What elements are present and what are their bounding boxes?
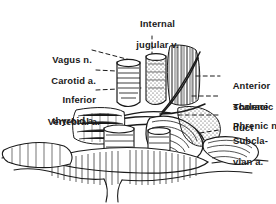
label-line-2: vian a. bbox=[233, 156, 263, 167]
label-line-1: Vagus n. bbox=[52, 54, 92, 65]
label-line-1: Anterior bbox=[233, 80, 271, 91]
label-vertebral-artery: Vertebral a. bbox=[4, 106, 100, 138]
label-line-1: Internal bbox=[140, 18, 175, 29]
label-line-2: jugular v. bbox=[136, 39, 178, 50]
left-tissue-mass bbox=[2, 142, 72, 168]
label-internal-jugular-vein: Internal jugular v. bbox=[112, 8, 192, 61]
carotid-artery-stump bbox=[117, 59, 140, 106]
label-line-1: Vertebral a. bbox=[48, 116, 100, 127]
anatomical-figure: Internal jugular v. Vagus n. Carotid a. … bbox=[0, 0, 276, 204]
label-line-1: Subcla- bbox=[233, 135, 268, 146]
label-subclavian-artery: Subcla- vian a. bbox=[222, 125, 276, 178]
label-line-1: Inferior bbox=[63, 94, 97, 105]
internal-jugular-vein-stump bbox=[146, 54, 166, 105]
